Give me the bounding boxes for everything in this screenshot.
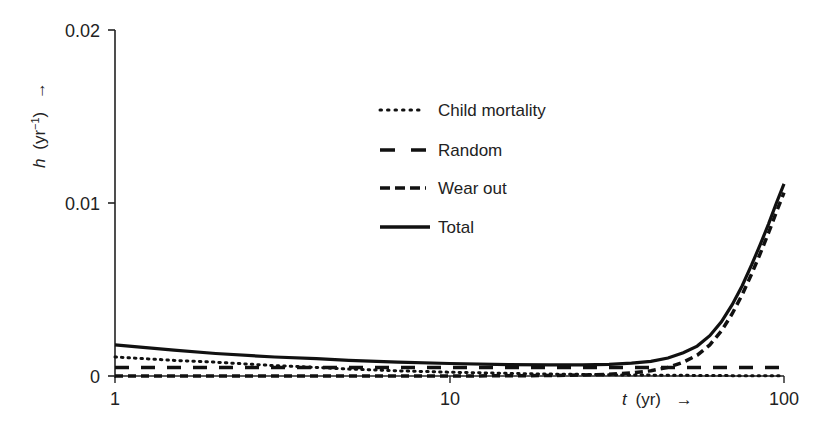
y-axis (108, 30, 115, 378)
svg-text:Wear out: Wear out (438, 179, 507, 198)
plot-area (115, 184, 784, 376)
x-axis-label: t (yr) → (622, 390, 693, 409)
hazard-rate-chart: 0.02 0.01 0 1 10 100 h (yr−1) → t (yr) →… (0, 0, 832, 437)
svg-text:Child mortality: Child mortality (438, 101, 546, 120)
svg-text:t (yr) →: t (yr) → (622, 390, 693, 409)
legend-item-random: Random (380, 141, 502, 160)
legend-item-child-mortality: Child mortality (380, 101, 546, 120)
x-axis (115, 376, 784, 383)
x-tick-10: 10 (440, 389, 460, 409)
svg-text:h (yr−1) →: h (yr−1) → (29, 82, 49, 168)
series-child-mortality (115, 357, 784, 376)
legend-item-total: Total (380, 218, 474, 237)
legend: Child mortality Random Wear out Total (380, 101, 546, 237)
y-tick-0.01: 0.01 (65, 194, 100, 214)
x-tick-1: 1 (110, 389, 120, 409)
legend-item-wear-out: Wear out (380, 179, 507, 198)
y-tick-0.02: 0.02 (65, 21, 100, 41)
svg-text:Total: Total (438, 218, 474, 237)
y-axis-label: h (yr−1) → (29, 82, 49, 168)
series-total (115, 184, 784, 365)
svg-text:Random: Random (438, 141, 502, 160)
x-tick-100: 100 (769, 389, 799, 409)
y-tick-0: 0 (90, 367, 100, 387)
